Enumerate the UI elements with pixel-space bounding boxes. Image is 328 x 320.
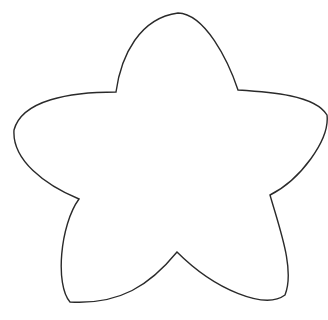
star-outline-path bbox=[14, 13, 327, 302]
star-outline-icon bbox=[0, 0, 328, 320]
drawing-canvas bbox=[0, 0, 328, 320]
